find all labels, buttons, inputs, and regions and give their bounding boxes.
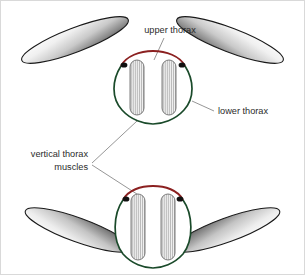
wing-hinge-left-down (123, 196, 130, 201)
thorax-diagram: upper thorax lower thorax vertical thora… (0, 0, 305, 275)
vertical-muscle-right-down (161, 194, 175, 260)
wing-hinge-right-up (179, 62, 186, 67)
wing-left-up (17, 8, 132, 71)
leader-muscles-upper (92, 121, 137, 163)
diagram-wings-down (21, 186, 283, 268)
diagram-canvas: upper thorax lower thorax vertical thora… (0, 0, 305, 275)
leader-upper-thorax (154, 38, 164, 60)
leader-lower-thorax (192, 101, 214, 111)
wing-right-up (172, 8, 287, 71)
label-vertical-thorax-muscles-line1: vertical thorax (31, 149, 89, 159)
label-upper-thorax: upper thorax (144, 25, 196, 35)
vertical-muscle-right-up (162, 60, 176, 115)
vertical-muscle-left-up (130, 60, 144, 115)
label-lower-thorax: lower thorax (218, 106, 268, 116)
lower-thorax-down (115, 200, 191, 268)
wing-hinge-left-up (121, 62, 128, 67)
vertical-muscle-left-down (131, 194, 145, 260)
wing-hinge-right-down (177, 196, 184, 201)
label-vertical-thorax-muscles-line2: muscles (54, 162, 88, 172)
lower-thorax-up (114, 66, 192, 124)
